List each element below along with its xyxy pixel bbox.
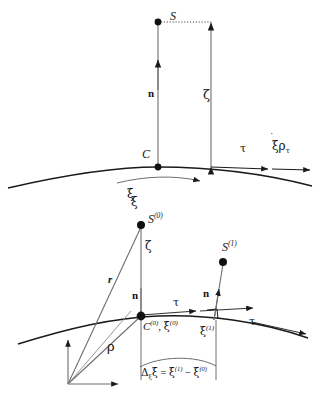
label-lower-tau-right: τ xyxy=(249,316,255,327)
label-lower-normal-right: n xyxy=(203,288,209,299)
upper-point-c xyxy=(155,164,162,171)
upper-arc-arrow xyxy=(117,177,200,183)
eq-term1-superscript: (1) xyxy=(175,365,183,372)
vector-rho-line xyxy=(68,316,141,384)
lower-tangent-arrow-left xyxy=(141,311,196,315)
figure-canvas: S C n ζ τ ̇ ξρτ ξ ξ S(0) S(1) ζ n n τ τ … xyxy=(0,0,319,398)
label-upper-c: C xyxy=(142,148,150,160)
label-lower-c0-xi0: C(0), ξ(0) xyxy=(143,320,178,332)
label-lower-xi1: ξ(1) xyxy=(200,325,214,337)
velocity-xi: ξ xyxy=(272,139,279,153)
xi0-superscript: (0) xyxy=(170,319,178,326)
equation-delta-xi: Δξξ = ξ(1) − ξ(0) xyxy=(141,366,207,380)
label-lower-zeta: ζ xyxy=(145,240,152,252)
label-upper-velocity: ̇ ξρτ xyxy=(272,140,290,155)
upper-velocity-arrow xyxy=(272,169,310,170)
label-upper-tau: τ xyxy=(240,143,246,154)
lower-panel-group xyxy=(18,221,308,384)
label-vector-r: r xyxy=(108,274,112,285)
label-comma: , xyxy=(158,320,161,332)
label-vector-rho: ρ xyxy=(107,340,115,353)
s1-superscript: (1) xyxy=(228,239,237,248)
velocity-rho: ρ xyxy=(279,139,286,153)
eq-equals: = xyxy=(160,367,166,378)
eq-lhs-xi: ξ xyxy=(152,366,158,378)
label-lower-s0: S(0) xyxy=(148,212,163,225)
s0-superscript: (0) xyxy=(154,211,163,220)
label-lower-arc-xi: ξ xyxy=(131,196,138,208)
upper-panel-group xyxy=(8,19,312,188)
label-lower-s1: S(1) xyxy=(222,240,237,253)
label-upper-zeta: ζ xyxy=(203,88,210,101)
upper-surface-curve xyxy=(8,167,312,188)
diagram-vector-layer xyxy=(0,0,319,398)
eq-minus: − xyxy=(185,367,191,378)
upper-tangent-arrow xyxy=(211,167,268,169)
eq-term2-superscript: (0) xyxy=(199,365,207,372)
lower-normal-arrow-right xyxy=(214,289,219,320)
upper-point-s xyxy=(155,19,162,26)
label-upper-s: S xyxy=(170,10,176,22)
eq-delta: Δ xyxy=(141,366,149,378)
lower-tangent-arrow-right xyxy=(252,322,306,334)
label-lower-normal-left: n xyxy=(132,290,138,301)
xi1-superscript: (1) xyxy=(206,324,214,331)
vector-aux-line xyxy=(68,311,131,384)
label-lower-tau-left: τ xyxy=(173,297,179,308)
lower-point-s0 xyxy=(137,221,145,229)
vector-r-line xyxy=(68,227,141,384)
velocity-rho-subscript: τ xyxy=(286,146,290,155)
label-upper-normal-n: n xyxy=(148,88,154,99)
lower-point-s1 xyxy=(219,258,227,266)
